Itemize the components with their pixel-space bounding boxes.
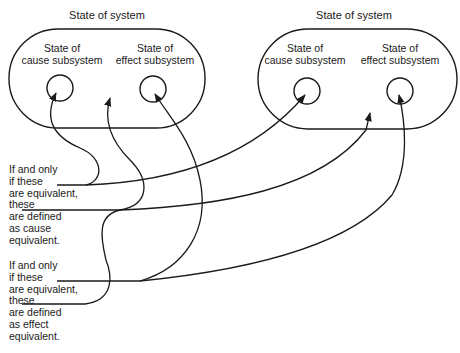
right-effect-label-2: effect subsystem: [361, 54, 440, 66]
connector-arrows: [22, 93, 405, 304]
left-effect-subsystem-circle: [140, 76, 166, 102]
right-cause-label-1: State of: [287, 42, 323, 54]
effect-equivalence-note: If and only if these are equivalent, the…: [9, 260, 78, 343]
left-cause-subsystem-circle: [47, 75, 73, 101]
left-system: State of system State of cause subsystem…: [9, 9, 205, 128]
right-system: State of system State of cause subsystem…: [258, 9, 457, 129]
left-effect-label-1: State of: [137, 42, 173, 54]
right-effect-label-1: State of: [382, 42, 418, 54]
effect-note-line: equivalent.: [9, 331, 78, 343]
left-cause-label-1: State of: [44, 42, 80, 54]
cause-note-line: as cause: [9, 223, 78, 235]
left-cause-label-2: cause subsystem: [21, 54, 102, 66]
right-cause-label-2: cause subsystem: [264, 54, 345, 66]
effect-note-line: as effect: [9, 319, 78, 331]
cause-note-line: equivalent.: [9, 235, 78, 247]
left-effect-label-2: effect subsystem: [116, 54, 195, 66]
right-cause-subsystem-circle: [294, 78, 320, 104]
cause-note-line: if these: [9, 176, 78, 188]
effect-note-line: if these: [9, 272, 78, 284]
right-system-title: State of system: [316, 9, 392, 21]
left-system-title: State of system: [69, 9, 145, 21]
cause-equivalence-note: If and only if these are equivalent, the…: [9, 164, 78, 247]
